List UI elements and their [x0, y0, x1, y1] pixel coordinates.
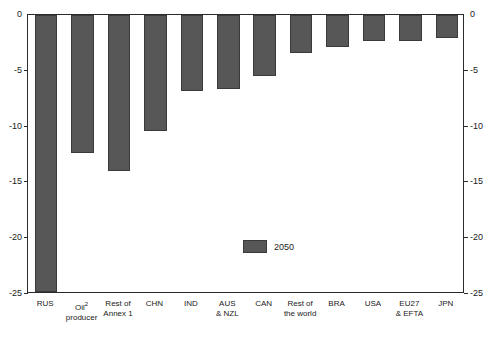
- x-axis-label-line2: & NZL: [209, 309, 245, 319]
- bar-slot: [71, 15, 94, 292]
- legend: 2050: [243, 240, 294, 253]
- x-axis-label-jpn: JPN: [428, 299, 464, 309]
- y-tick-label-left: -5: [0, 65, 22, 75]
- y-tick-mark-left: [24, 126, 28, 127]
- x-axis-label-line1: AUS: [219, 299, 235, 308]
- figure-root: 00-5-5-10-10-15-15-20-20-25-25 RUSOil2pr…: [0, 0, 491, 337]
- bar-oil-2-producer[interactable]: [71, 15, 94, 153]
- y-tick-mark-left: [24, 293, 28, 294]
- x-axis-label-rest-of-annex-1: Rest ofAnnex 1: [100, 299, 136, 319]
- x-axis-label-can: CAN: [246, 299, 282, 309]
- x-axis-label-line1: CHN: [146, 299, 163, 308]
- x-axis-label-line1: CAN: [255, 299, 272, 308]
- x-axis-label-oil-2-producer: Oil2producer: [63, 299, 99, 323]
- x-axis-label-line1: RUS: [37, 299, 54, 308]
- bar-aus-nzl[interactable]: [217, 15, 240, 89]
- bar-jpn[interactable]: [436, 15, 459, 38]
- legend-swatch-2050: [243, 240, 267, 253]
- bar-rest-of-annex-1[interactable]: [108, 15, 131, 171]
- y-tick-label-left: 0: [0, 9, 22, 19]
- x-axis-label-line2: producer: [63, 313, 99, 323]
- y-tick-label-left: -20: [0, 232, 22, 242]
- y-tick-mark-right: [464, 126, 468, 127]
- bar-bra[interactable]: [326, 15, 349, 47]
- x-axis-label-line2: Annex 1: [100, 309, 136, 319]
- bar-slot: [181, 15, 204, 292]
- y-tick-label-right: -15: [470, 176, 491, 186]
- y-tick-mark-left: [24, 237, 28, 238]
- y-tick-mark-right: [464, 237, 468, 238]
- y-tick-mark-right: [464, 70, 468, 71]
- bar-slot: [326, 15, 349, 292]
- legend-label-2050: 2050: [274, 242, 294, 252]
- bar-slot: [108, 15, 131, 292]
- bar-slot: [217, 15, 240, 292]
- y-tick-label-left: -15: [0, 176, 22, 186]
- bar-ind[interactable]: [181, 15, 204, 91]
- y-tick-mark-left: [24, 181, 28, 182]
- y-tick-label-right: -10: [470, 121, 491, 131]
- x-axis-label-eu27-efta: EU27& EFTA: [391, 299, 427, 319]
- bar-eu27-efta[interactable]: [399, 15, 422, 41]
- x-axis-label-chn: CHN: [136, 299, 172, 309]
- y-tick-label-left: -10: [0, 121, 22, 131]
- x-axis-label-rus: RUS: [27, 299, 63, 309]
- x-axis-label-line1: Oil: [75, 303, 85, 312]
- x-axis-label-line1: IND: [184, 299, 198, 308]
- bar-rus[interactable]: [35, 15, 58, 292]
- y-tick-label-right: 0: [470, 9, 491, 19]
- x-axis-label-line1: USA: [365, 299, 381, 308]
- bar-slot: [363, 15, 386, 292]
- x-axis-label-line1: JPN: [438, 299, 453, 308]
- bar-slot: [144, 15, 167, 292]
- x-axis-label-aus-nzl: AUS& NZL: [209, 299, 245, 319]
- bar-can[interactable]: [253, 15, 276, 76]
- bar-slot: [436, 15, 459, 292]
- x-axis-label-line1: Rest of: [287, 299, 312, 308]
- x-axis-label-ind: IND: [173, 299, 209, 309]
- bar-chn[interactable]: [144, 15, 167, 131]
- chart-title-clipped: [0, 0, 491, 7]
- y-tick-label-right: -20: [470, 232, 491, 242]
- footnote-marker-2: 2: [85, 301, 88, 307]
- bar-slot: [399, 15, 422, 292]
- y-tick-mark-left: [24, 70, 28, 71]
- x-axis-label-usa: USA: [355, 299, 391, 309]
- footnote-clipped: [0, 330, 491, 337]
- x-axis-label-line1: Rest of: [105, 299, 130, 308]
- y-tick-label-right: -25: [470, 288, 491, 298]
- bar-slot: [35, 15, 58, 292]
- x-axis-label-line1: BRA: [328, 299, 344, 308]
- bar-rest-of-the-world[interactable]: [290, 15, 313, 53]
- y-tick-label-left: -25: [0, 288, 22, 298]
- y-tick-label-right: -5: [470, 65, 491, 75]
- y-tick-mark-right: [464, 293, 468, 294]
- x-axis-label-line2: & EFTA: [391, 309, 427, 319]
- x-axis-label-line2: the world: [282, 309, 318, 319]
- bar-usa[interactable]: [363, 15, 386, 41]
- x-axis-label-rest-of-the-world: Rest ofthe world: [282, 299, 318, 319]
- x-axis-label-bra: BRA: [318, 299, 354, 309]
- y-tick-mark-right: [464, 181, 468, 182]
- x-axis-label-line1: EU27: [399, 299, 419, 308]
